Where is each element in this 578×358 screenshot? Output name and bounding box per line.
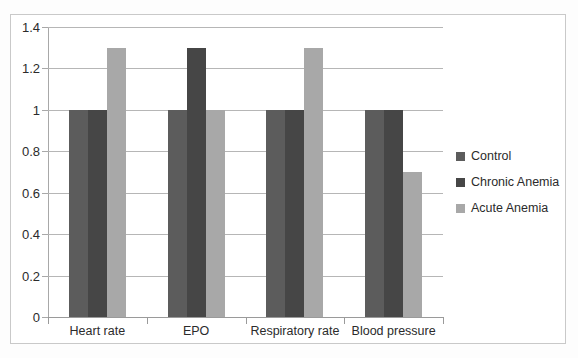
y-axis-tick-label: 0.6 [6,185,40,200]
bar [365,110,384,317]
y-axis-tick-label: 0.4 [6,227,40,242]
plot-area [48,27,443,317]
bar [187,48,206,317]
x-axis-tick [147,318,148,324]
bar-group [168,27,225,317]
y-axis-tick-label: 1.4 [6,20,40,35]
x-axis-category-label: Blood pressure [352,324,436,338]
legend-item[interactable]: Control [456,143,566,169]
bar [107,48,126,317]
y-axis-tick-label: 0.8 [6,144,40,159]
bar-group [69,27,126,317]
x-axis-tick [246,318,247,324]
x-axis-tick [344,318,345,324]
chart-legend: ControlChronic AnemiaAcute Anemia [456,143,566,221]
y-axis-tick-label: 0 [6,310,40,325]
y-axis-tick [42,193,48,194]
x-axis-category-label: Heart rate [70,324,126,338]
legend-item[interactable]: Acute Anemia [456,195,566,221]
y-axis-tick [42,234,48,235]
bar [168,110,187,317]
y-axis-tick [42,151,48,152]
x-axis-category-label: Respiratory rate [250,324,339,338]
legend-swatch-icon [456,178,465,187]
y-axis-tick-label: 1.2 [6,61,40,76]
legend-swatch-icon [456,204,465,213]
bar [304,48,323,317]
bar [266,110,285,317]
bar [384,110,403,317]
y-axis-tick-label: 1 [6,102,40,117]
legend-swatch-icon [456,152,465,161]
legend-item[interactable]: Chronic Anemia [456,169,566,195]
bar [403,172,422,317]
bar [285,110,304,317]
bar-chart-figure: 00.20.40.60.811.21.4 ControlChronic Anem… [0,0,578,358]
legend-item-label: Control [471,149,511,163]
x-axis-tick [48,318,49,324]
bar [69,110,88,317]
y-axis-tick [42,27,48,28]
y-axis-tick [42,110,48,111]
y-axis-tick [42,276,48,277]
x-axis-category-label: EPO [183,324,209,338]
y-axis-tick [42,68,48,69]
y-axis-tick-label: 0.2 [6,268,40,283]
legend-item-label: Acute Anemia [471,201,548,215]
x-axis-tick [443,318,444,324]
bar-group [365,27,422,317]
bar [206,110,225,317]
bar [88,110,107,317]
bar-group [266,27,323,317]
legend-item-label: Chronic Anemia [471,175,559,189]
y-axis-labels: 00.20.40.60.811.21.4 [0,27,40,318]
